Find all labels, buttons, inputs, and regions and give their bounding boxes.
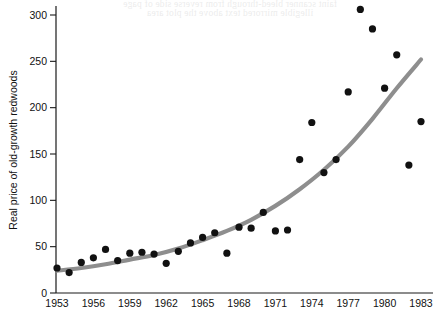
data-point [405, 162, 412, 169]
data-point [345, 88, 352, 95]
data-point [199, 234, 206, 241]
data-point [187, 239, 194, 246]
data-point [90, 254, 97, 261]
data-point [102, 246, 109, 253]
y-tick-label: 250 [29, 55, 47, 67]
data-point [235, 224, 242, 231]
data-point [150, 250, 157, 257]
x-axis: 1953195619591962196519681971197419771980… [45, 293, 433, 309]
x-tick-label: 1968 [227, 297, 251, 309]
y-axis-title: Real price of old-growth redwoods [7, 70, 19, 229]
data-point [260, 209, 267, 216]
data-point [357, 6, 364, 13]
y-axis: 050100150200250300 Real price of old-gro… [7, 6, 56, 299]
x-tick-label: 1971 [264, 297, 288, 309]
data-point [332, 156, 339, 163]
data-point [272, 227, 279, 234]
x-tick-label: 1956 [82, 297, 106, 309]
data-point [308, 119, 315, 126]
data-point [138, 249, 145, 256]
chart-container: 050100150200250300 Real price of old-gro… [0, 0, 437, 319]
data-point [369, 25, 376, 32]
x-tick-label: 1977 [337, 297, 361, 309]
data-point [66, 269, 73, 276]
data-point [393, 51, 400, 58]
data-point [175, 248, 182, 255]
y-tick-label: 50 [35, 240, 47, 252]
x-tick-label: 1980 [373, 297, 397, 309]
y-tick-label: 150 [29, 148, 47, 160]
y-tick-label: 100 [29, 194, 47, 206]
x-tick-label: 1953 [45, 297, 69, 309]
data-point [211, 229, 218, 236]
data-point [163, 260, 170, 267]
x-tick-label: 1959 [118, 297, 142, 309]
x-tick-label: 1974 [300, 297, 324, 309]
y-tick-label: 300 [29, 9, 47, 21]
data-points-group [53, 6, 424, 276]
data-point [126, 250, 133, 257]
x-axis-ticks: 1953195619591962196519681971197419771980… [45, 297, 433, 309]
data-point [417, 118, 424, 125]
data-point [296, 156, 303, 163]
data-point [78, 259, 85, 266]
data-point [284, 226, 291, 233]
scatter-chart: 050100150200250300 Real price of old-gro… [0, 0, 437, 319]
y-axis-ticks: 050100150200250300 [29, 9, 56, 299]
data-point [381, 85, 388, 92]
data-point [248, 225, 255, 232]
data-point [320, 169, 327, 176]
x-tick-label: 1965 [191, 297, 215, 309]
x-tick-label: 1983 [409, 297, 433, 309]
data-point [114, 257, 121, 264]
y-tick-label: 200 [29, 101, 47, 113]
data-point [223, 250, 230, 257]
data-point [53, 264, 60, 271]
trend-curve-line [57, 59, 421, 270]
x-tick-label: 1962 [155, 297, 179, 309]
